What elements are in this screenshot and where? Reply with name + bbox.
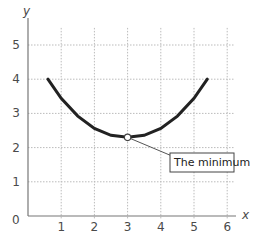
chart: 12345612345 y x 0 The minimum: [0, 0, 265, 244]
y-tick-label: 4: [12, 72, 20, 86]
annotation-text: The minimum: [173, 156, 250, 169]
x-tick-label: 5: [190, 220, 198, 234]
x-tick-label: 6: [223, 220, 231, 234]
origin-label: 0: [12, 213, 20, 227]
x-tick-label: 3: [124, 220, 132, 234]
y-tick-label: 5: [12, 38, 20, 52]
minimum-point-marker: [124, 134, 130, 140]
x-tick-label: 4: [157, 220, 165, 234]
y-axis-label: y: [22, 4, 31, 18]
y-tick-label: 2: [12, 141, 20, 155]
y-tick-label: 1: [12, 175, 20, 189]
x-tick-label: 2: [91, 220, 99, 234]
x-axis-label: x: [241, 208, 250, 222]
axes: [28, 18, 236, 216]
annotation-box: The minimum: [170, 153, 250, 172]
annotation-leader-line: [128, 137, 172, 156]
y-tick-label: 3: [12, 106, 20, 120]
grid-lines: [28, 28, 234, 219]
x-tick-label: 1: [57, 220, 65, 234]
